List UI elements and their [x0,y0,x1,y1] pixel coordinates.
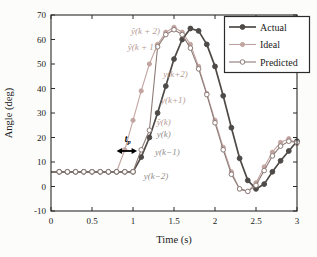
x-tick-label: 1.5 [168,216,180,226]
legend-label: Actual [260,22,287,33]
series-predicted-marker [65,170,70,175]
paper-figure: 00.511.522.53-10010203040506070 ŷ(k + 2)… [0,0,317,257]
series-actual-marker [163,84,168,89]
series-actual-marker [172,57,177,62]
series-predicted-marker [114,170,119,175]
y-tick-label: 0 [42,182,47,192]
series-actual-marker [286,149,291,154]
series-ideal-marker [131,118,135,122]
series-actual-marker [221,93,226,98]
series-actual-marker [196,29,201,34]
series-predicted-marker [229,172,234,177]
series-actual-marker [213,64,218,69]
legend-marker [240,60,245,65]
series-predicted-marker [213,121,218,126]
legend: ActualIdealPredicted [225,17,310,73]
legend-marker [240,42,244,46]
annotation-label: y(k+2) [162,69,188,79]
series-predicted-marker [180,32,185,37]
y-tick-label: 20 [37,133,47,143]
y-tick-label: 50 [37,59,47,69]
y-tick-label: -10 [34,206,46,216]
series-actual-marker [188,26,193,31]
series-predicted-marker [196,67,201,72]
series-predicted-marker [123,170,128,175]
series-actual-marker [278,158,283,163]
x-tick-label: 1 [131,216,136,226]
series-predicted-marker [172,27,177,32]
angle-time-chart: 00.511.522.53-10010203040506070 ŷ(k + 2)… [0,0,317,257]
series-predicted-marker [90,170,95,175]
series-ideal-marker [147,62,151,66]
annotation-label: y(k+1) [160,95,186,105]
series-predicted-marker [98,170,103,175]
legend-marker [240,25,245,30]
annotation-label: y(k−1) [154,147,180,157]
x-tick-label: 3 [295,216,300,226]
legend-label: Predicted [260,57,298,68]
series-predicted-marker [287,139,292,144]
series-predicted-marker [82,170,87,175]
series-actual-marker [147,135,152,140]
annotation-label: y(k−2) [143,171,169,181]
series-predicted-marker [106,170,111,175]
series-predicted-marker [131,170,136,175]
series-actual-marker [270,169,275,174]
y-axis-title: Angle (deg) [3,87,15,138]
series-actual-marker [237,156,242,161]
series-actual-marker [245,178,250,183]
x-tick-label: 0.5 [86,216,98,226]
y-tick-label: 70 [37,10,47,20]
series-predicted-marker [164,32,169,37]
series-predicted-marker [254,183,259,188]
series-actual-marker [229,125,234,130]
annotation-label: ŷ(k + 2) [130,26,160,36]
series-predicted-marker [262,168,267,173]
legend-label: Ideal [260,39,280,50]
y-tick-label: 60 [37,35,47,45]
series-predicted-marker [147,128,152,133]
y-tick-label: 10 [37,157,47,167]
x-tick-label: 0 [49,216,54,226]
series-actual-marker [262,182,267,187]
series-predicted-marker [139,148,144,153]
series-predicted-marker [270,154,275,159]
series-predicted-marker [57,170,62,175]
series-predicted-marker [278,144,283,149]
series-predicted-marker [221,148,226,153]
annotation-label: ŷ(k) [156,117,171,127]
x-axis-title: Time (s) [156,234,192,246]
x-tick-label: 2.5 [250,216,262,226]
series-predicted-marker [205,92,210,97]
annotation-label: ŷ(k + 1) [127,42,157,52]
y-tick-label: 40 [37,84,47,94]
series-ideal-marker [139,89,143,93]
series-actual-marker [204,42,209,47]
series-predicted-marker [73,170,78,175]
series-predicted-marker [188,46,193,51]
annotation-label: y(k) [156,129,171,139]
series-predicted-marker [246,189,251,194]
series-actual-marker [155,111,160,116]
y-tick-label: 30 [37,108,47,118]
series-predicted-marker [237,187,242,192]
x-tick-label: 2 [213,216,218,226]
